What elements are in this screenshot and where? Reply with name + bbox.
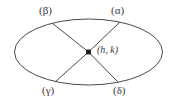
ellipse-diagram: (β) (α) (γ) (δ) (h, k) [0, 0, 174, 104]
chord-center-to-delta [89, 52, 119, 82]
center-point-dot [86, 50, 91, 55]
chord-center-to-beta [52, 23, 89, 52]
diagram-canvas [0, 0, 174, 104]
vertex-label-alpha: (α) [111, 5, 124, 16]
center-point-label: (h, k) [97, 45, 118, 55]
chord-center-to-gamma [55, 52, 89, 82]
vertex-label-gamma: (γ) [42, 85, 54, 96]
vertex-label-beta: (β) [39, 5, 52, 16]
vertex-label-delta: (δ) [113, 85, 126, 96]
